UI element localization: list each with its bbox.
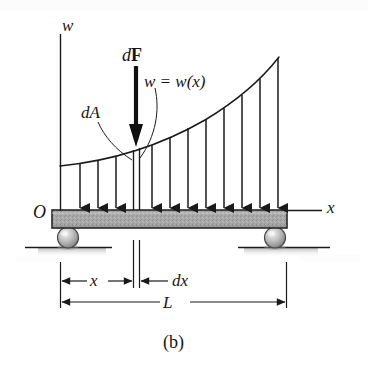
dF-force-label: dF	[122, 46, 142, 64]
dimension-x-label: x	[90, 272, 98, 289]
roller-support-left	[57, 227, 79, 250]
dF-force-arrow	[129, 66, 143, 147]
ground-right	[238, 248, 330, 258]
roller-support-right	[264, 227, 286, 250]
w-axis-label: w	[62, 17, 73, 34]
dF-vector-symbol: F	[131, 45, 142, 65]
load-curve-leader-line	[140, 88, 157, 158]
dimension-L-label: L	[163, 294, 172, 311]
differential-strip-dA	[134, 148, 140, 210]
dA-area-label: dA	[81, 104, 100, 121]
dF-differential-prefix: d	[122, 45, 131, 65]
beam-load-diagram	[0, 0, 368, 367]
load-function-label: w = w(x)	[144, 73, 206, 90]
dimension-dx-label: dx	[172, 272, 188, 289]
figure-container: w dF w = w(x) dA O x x dx L (b)	[0, 0, 368, 367]
x-axis-label: x	[327, 199, 335, 216]
figure-caption: (b)	[163, 333, 184, 351]
origin-label: O	[33, 203, 46, 221]
dA-leader-line	[98, 122, 132, 160]
beam	[52, 210, 287, 228]
